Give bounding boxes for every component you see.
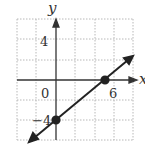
y-intercept-point	[52, 116, 59, 123]
x-axis-label: x	[139, 72, 145, 87]
y-tick-label-4: 4	[40, 35, 48, 48]
x-intercept-point	[101, 76, 108, 83]
graph-canvas	[0, 0, 145, 147]
y-axis-arrow-icon	[53, 19, 59, 27]
y-tick-label-neg4: −4	[32, 114, 51, 127]
x-tick-label-6: 6	[109, 87, 117, 100]
origin-label: 0	[41, 87, 49, 100]
line-arrow-lower-icon	[29, 133, 38, 142]
y-axis-label: y	[48, 1, 56, 16]
x-axis-arrow-icon	[129, 77, 137, 83]
